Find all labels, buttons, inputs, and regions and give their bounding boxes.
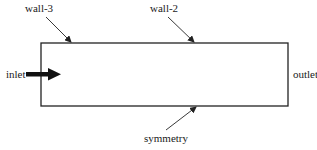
outlet-label: outlet — [293, 68, 317, 80]
symmetry-label: symmetry — [144, 132, 188, 144]
domain-rectangle — [41, 43, 288, 106]
symmetry-leader-arrow — [166, 107, 196, 130]
inlet-flow-arrow-icon — [26, 68, 61, 81]
inlet-label: inlet — [6, 68, 26, 80]
wall-2-label: wall-2 — [150, 2, 178, 14]
wall-3-leader-arrow — [46, 17, 71, 42]
wall-3-label: wall-3 — [25, 2, 53, 14]
boundary-diagram — [0, 0, 317, 150]
wall-2-leader-arrow — [168, 17, 194, 42]
